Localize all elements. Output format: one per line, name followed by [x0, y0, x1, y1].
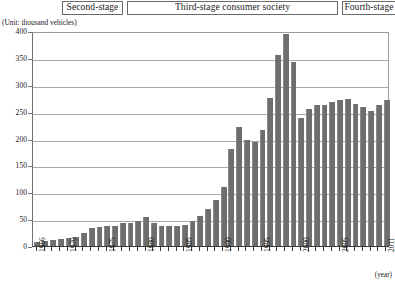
- x-axis-tick: [59, 247, 60, 251]
- bar: [213, 200, 219, 246]
- bar: [291, 62, 297, 246]
- x-axis-tick: [377, 247, 378, 251]
- bar: [228, 149, 234, 246]
- x-axis-tick: [129, 247, 130, 251]
- x-axis-tick: [160, 247, 161, 251]
- x-axis-tick: [36, 247, 37, 251]
- x-axis-tick-label: 1980: [148, 237, 155, 252]
- x-axis-labels: 1966197019751980198519901995200020052011: [32, 252, 389, 282]
- bar: [81, 233, 87, 246]
- bar: [128, 223, 134, 246]
- stage-label-third: Third-stage consumer society: [127, 1, 338, 15]
- bar: [166, 226, 172, 246]
- x-axis-tick: [323, 247, 324, 251]
- bar: [275, 55, 281, 246]
- x-axis-tick: [238, 247, 239, 251]
- bar: [298, 118, 304, 246]
- bar: [376, 105, 382, 246]
- x-axis-tick: [51, 247, 52, 251]
- bar: [97, 227, 103, 246]
- y-axis-tick-label: 50: [19, 216, 27, 224]
- bar: [120, 223, 126, 246]
- x-axis-tick: [106, 247, 107, 251]
- x-axis-tick-label: 1995: [264, 237, 271, 252]
- y-axis-tick-label: 0: [23, 243, 27, 251]
- x-axis-tick: [253, 247, 254, 251]
- x-axis-tick-label: 1970: [70, 237, 77, 252]
- bar: [360, 107, 366, 246]
- stage-label-fourth: Fourth-stage: [342, 1, 395, 15]
- x-axis-tick-label: 2000: [303, 237, 310, 252]
- bar-series: [33, 33, 388, 246]
- bar: [322, 105, 328, 246]
- x-axis-tick: [121, 247, 122, 251]
- x-axis-tick: [362, 247, 363, 251]
- bar: [345, 99, 351, 246]
- bar: [244, 140, 250, 246]
- x-axis-tick: [354, 247, 355, 251]
- x-axis-tick: [214, 247, 215, 251]
- x-axis-tick: [276, 247, 277, 251]
- x-axis-tick-label: 1966: [39, 237, 46, 252]
- x-axis-tick: [245, 247, 246, 251]
- bar: [197, 216, 203, 246]
- bar: [306, 109, 312, 246]
- bar: [267, 98, 273, 246]
- x-axis-tick-label: 2011: [388, 237, 395, 252]
- vehicle-sales-bar-chart: Second-stage Third-stage consumer societ…: [0, 0, 395, 287]
- bar: [384, 100, 390, 246]
- bar: [236, 127, 242, 246]
- y-axis-tick-label: 200: [16, 136, 27, 144]
- bar: [159, 226, 165, 246]
- x-axis-tick: [284, 247, 285, 251]
- x-axis-tick: [98, 247, 99, 251]
- x-axis-tick: [385, 247, 386, 251]
- x-axis-tick: [370, 247, 371, 251]
- bar: [260, 130, 266, 246]
- bar: [89, 228, 95, 246]
- plot-area: [32, 32, 389, 247]
- x-axis-tick: [222, 247, 223, 251]
- bar: [353, 104, 359, 246]
- x-axis-tick: [331, 247, 332, 251]
- bar: [329, 102, 335, 246]
- bar: [135, 221, 141, 246]
- consumer-society-stage-banner: Second-stage Third-stage consumer societ…: [0, 0, 395, 17]
- x-axis-tick: [82, 247, 83, 251]
- x-axis-tick: [145, 247, 146, 251]
- y-axis-tick-label: 300: [16, 82, 27, 90]
- y-axis-tick-label: 350: [16, 55, 27, 63]
- x-axis-tick: [300, 247, 301, 251]
- x-axis-tick: [176, 247, 177, 251]
- x-axis-tick-label: 1975: [109, 237, 116, 252]
- bar: [368, 111, 374, 246]
- bar: [252, 142, 258, 246]
- y-axis-tick-label: 400: [16, 28, 27, 36]
- bar: [205, 209, 211, 246]
- x-axis-tick: [315, 247, 316, 251]
- bar: [50, 240, 56, 246]
- x-axis-tick: [67, 247, 68, 251]
- x-axis-tick: [199, 247, 200, 251]
- y-axis-tick-label: 250: [16, 109, 27, 117]
- x-axis-tick: [168, 247, 169, 251]
- stage-label-second: Second-stage: [62, 1, 123, 15]
- x-axis-tick-label: 1985: [186, 237, 193, 252]
- x-axis-tick: [137, 247, 138, 251]
- x-axis-tick: [292, 247, 293, 251]
- x-axis-tick: [261, 247, 262, 251]
- x-axis-tick: [90, 247, 91, 251]
- bar: [58, 239, 64, 246]
- x-axis-tick: [207, 247, 208, 251]
- x-axis-tick-label: 2005: [342, 237, 349, 252]
- x-axis-tick-label: 1990: [225, 237, 232, 252]
- y-axis-tick-label: 150: [16, 162, 27, 170]
- bar: [283, 34, 289, 246]
- y-axis-tick-label: 100: [16, 189, 27, 197]
- x-axis-caption: (year): [375, 272, 392, 279]
- x-axis-tick: [339, 247, 340, 251]
- bar: [337, 100, 343, 246]
- bar: [314, 105, 320, 246]
- y-axis: 050100150200250300350400: [0, 0, 32, 287]
- bar: [174, 226, 180, 246]
